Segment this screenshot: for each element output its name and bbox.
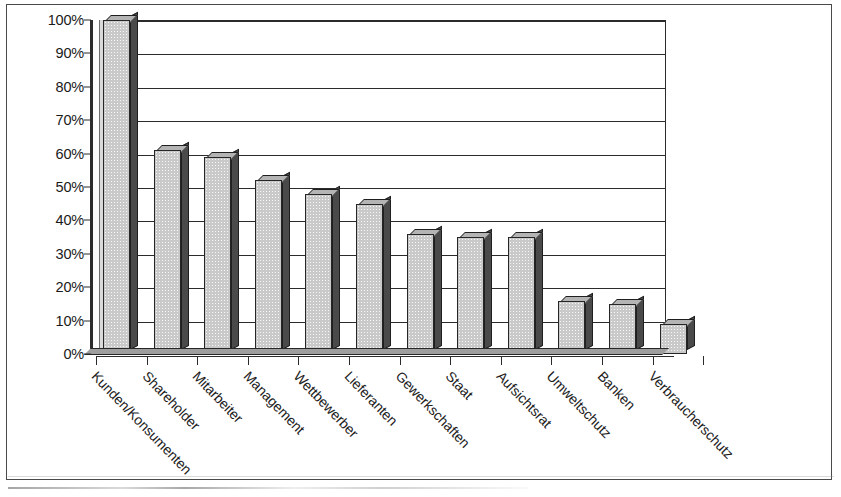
bar-side-face	[484, 229, 492, 350]
y-axis-tick-mark	[84, 86, 91, 87]
x-axis-tick	[653, 356, 654, 365]
x-axis-tick	[450, 356, 451, 365]
y-axis-tick-label: 20%	[56, 279, 84, 295]
y-axis-tick-mark	[84, 53, 91, 54]
bar-front-face	[154, 150, 181, 354]
plot-floor-3d	[84, 348, 669, 355]
bar	[103, 20, 130, 354]
y-axis-tick-mark	[84, 120, 91, 121]
y-axis-tick-mark	[84, 253, 91, 254]
y-axis-tick-label: 50%	[56, 179, 84, 195]
bar	[457, 237, 484, 354]
bar-side-face	[181, 142, 189, 350]
x-axis-tick	[96, 356, 97, 365]
x-axis-tick	[501, 356, 502, 365]
bar-side-face	[130, 12, 138, 350]
bar	[356, 204, 383, 354]
y-axis-tick-label: 80%	[56, 79, 84, 95]
y-axis-tick-mark	[84, 20, 91, 21]
bar-side-face	[282, 172, 290, 350]
y-axis-tick-mark	[84, 354, 91, 355]
y-axis-tick-label: 10%	[56, 313, 84, 329]
x-axis-tick	[400, 356, 401, 365]
x-axis-tick	[551, 356, 552, 365]
bar-front-face	[407, 234, 434, 354]
y-axis-tick-mark	[84, 187, 91, 188]
y-axis-tick-mark	[84, 220, 91, 221]
x-axis-line	[96, 356, 674, 357]
x-axis-tick	[197, 356, 198, 365]
y-axis-tick-label: 40%	[56, 212, 84, 228]
bar-side-face	[231, 149, 239, 350]
x-axis-tick	[298, 356, 299, 365]
bar-front-face	[457, 237, 484, 354]
bar-front-face	[255, 180, 282, 354]
bar-side-face	[434, 225, 442, 349]
y-axis-tick-mark	[84, 287, 91, 288]
gridline	[91, 88, 665, 89]
bar	[154, 150, 181, 354]
bar-side-face	[535, 229, 543, 350]
y-axis-tick-mark	[84, 320, 91, 321]
x-axis-tick	[602, 356, 603, 365]
y-axis-tick-mark	[84, 153, 91, 154]
bar	[558, 301, 585, 354]
x-axis-tick	[349, 356, 350, 365]
bar-front-face	[356, 204, 383, 354]
bar-front-face	[609, 304, 636, 354]
y-axis-label-group: 0%10%20%30%40%50%60%70%80%90%100%	[22, 20, 84, 354]
bar	[255, 180, 282, 354]
bar-front-face	[305, 194, 332, 354]
scan-artifact-smudge	[8, 487, 528, 489]
bar-side-face	[332, 185, 340, 350]
bar-front-face	[508, 237, 535, 354]
bar	[204, 157, 231, 354]
gridline	[91, 21, 665, 22]
x-axis-tick	[703, 356, 704, 365]
bar	[609, 304, 636, 354]
axis-wall-3d	[91, 20, 100, 354]
bar	[508, 237, 535, 354]
bar-front-face	[558, 301, 585, 354]
gridline	[91, 121, 665, 122]
y-axis-tick-label: 100%	[48, 12, 84, 28]
chart-page: 0%10%20%30%40%50%60%70%80%90%100% Kunden…	[0, 0, 841, 497]
y-axis-tick-label: 60%	[56, 146, 84, 162]
y-axis-tick-label: 0%	[63, 346, 84, 362]
scan-artifact-line	[8, 476, 834, 477]
bar-front-face	[103, 20, 130, 354]
x-axis-tick	[147, 356, 148, 365]
bar-front-face	[204, 157, 231, 354]
gridline	[91, 54, 665, 55]
x-axis-tick	[248, 356, 249, 365]
bar	[407, 234, 434, 354]
bar	[305, 194, 332, 354]
bar-side-face	[383, 195, 391, 350]
y-axis-tick-label: 90%	[56, 45, 84, 61]
y-axis-tick-label: 30%	[56, 246, 84, 262]
y-axis-tick-label: 70%	[56, 112, 84, 128]
